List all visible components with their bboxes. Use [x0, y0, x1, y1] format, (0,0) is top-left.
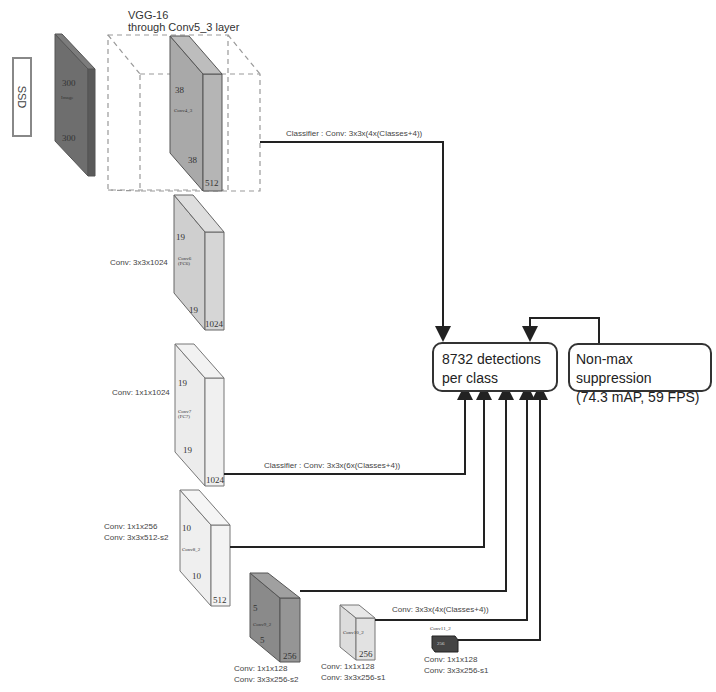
- conv11-2-name: Conv11_2: [430, 626, 451, 631]
- conv4-3-slab: [170, 36, 222, 191]
- classifier-label-middle: Classifier : Conv: 3x3x(6x(Classes+4)): [264, 461, 400, 471]
- detections-line2: per class: [442, 369, 548, 388]
- detections-box: 8732 detections per class: [432, 342, 558, 392]
- ssd-label: SSD: [16, 86, 28, 109]
- conv7-dim-top: 19: [178, 378, 187, 388]
- conv11-2-slab: [432, 636, 458, 652]
- image-dim-top: 300: [62, 78, 76, 88]
- conv9-2-slab: [250, 573, 300, 662]
- conv8-2-name: Conv8_2: [182, 547, 200, 552]
- conv9-2-dim-bottom: 5: [260, 635, 265, 645]
- conv9-2-depth: 256: [283, 651, 297, 661]
- conv9-2-name: Conv9_2: [253, 622, 271, 627]
- conv4-3-dim-bottom: 38: [188, 155, 197, 165]
- vgg-title-line1: VGG-16: [128, 9, 239, 21]
- conv11-2-depth: 256: [437, 641, 445, 646]
- conv7-conv-label: Conv: 1x1x1024: [112, 388, 170, 398]
- conv6-name: Conv6 (FC6): [178, 256, 200, 266]
- ssd-label-box: SSD: [12, 57, 32, 137]
- conv9-2-dim-top: 5: [253, 603, 258, 613]
- conv10-2-name: Conv10_2: [343, 630, 364, 635]
- detections-line1: 8732 detections: [442, 350, 548, 369]
- conv4-3-name: Conv4_3: [174, 108, 192, 113]
- conv8-2-conv-label-2: Conv: 3x3x512-s2: [104, 533, 168, 543]
- classifier-label-bottom: Conv: 3x3x(4x(Classes+4)): [392, 605, 489, 615]
- image-slab: [55, 34, 95, 176]
- conv9-2-conv-label-1: Conv: 1x1x128: [234, 664, 287, 674]
- conv6-dim-top: 19: [176, 232, 185, 242]
- conv7-dim-bottom: 19: [183, 445, 192, 455]
- image-name: Image: [61, 95, 74, 100]
- classifier-label-top: Classifier : Conv: 3x3x(4x(Classes+4)): [286, 129, 422, 139]
- conv7-depth: 1024: [206, 475, 224, 485]
- conv11-2-conv-label-1: Conv: 1x1x128: [424, 655, 477, 665]
- conv8-2-dim-bottom: 10: [192, 571, 201, 581]
- conv4-3-depth: 512: [205, 178, 219, 188]
- nms-line2: (74.3 mAP, 59 FPS): [576, 388, 704, 407]
- conv9-2-conv-label-2: Conv: 3x3x256-s2: [234, 675, 298, 685]
- conv6-dim-bottom: 19: [189, 305, 198, 315]
- nms-line1: Non-max suppression: [576, 350, 704, 388]
- conv8-2-dim-top: 10: [182, 523, 191, 533]
- nms-box: Non-max suppression (74.3 mAP, 59 FPS): [568, 343, 712, 392]
- conv6-conv-label: Conv: 3x3x1024: [110, 258, 168, 268]
- conv10-2-conv-label-2: Conv: 3x3x256-s1: [321, 673, 385, 683]
- conv6-depth: 1024: [205, 319, 223, 329]
- conv10-2-depth: 256: [359, 649, 373, 659]
- vgg-title: VGG-16 through Conv5_3 layer: [128, 9, 239, 33]
- conv7-name: Conv7 (FC7): [178, 409, 200, 419]
- conv8-2-depth: 512: [213, 595, 227, 605]
- vgg-title-line2: through Conv5_3 layer: [128, 21, 239, 33]
- image-dim-bottom: 300: [62, 133, 76, 143]
- conv11-2-conv-label-2: Conv: 3x3x256-s1: [424, 666, 488, 676]
- conv8-2-conv-label-1: Conv: 1x1x256: [104, 522, 157, 532]
- conv10-2-conv-label-1: Conv: 1x1x128: [321, 662, 374, 672]
- conv4-3-dim-top: 38: [175, 85, 184, 95]
